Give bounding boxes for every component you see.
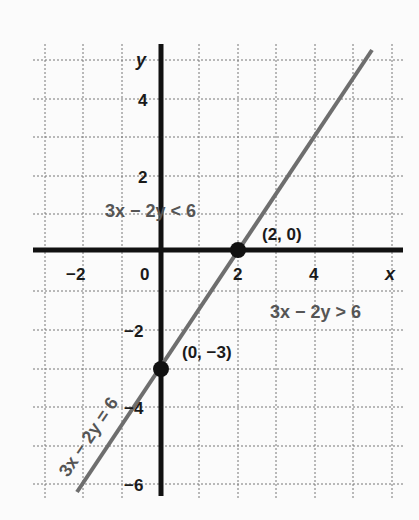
inequality-graph: y x −2 0 2 4 4 2 −2 −4 −6 (2, 0) (0, −3)… bbox=[0, 0, 419, 520]
region-label-greater: 3x − 2y > 6 bbox=[270, 302, 361, 322]
boundary-line bbox=[77, 50, 372, 492]
x-tick-4: 4 bbox=[309, 265, 319, 284]
y-tick-minus-2: −2 bbox=[124, 322, 143, 341]
y-tick-minus-4: −4 bbox=[124, 399, 144, 418]
y-tick-4: 4 bbox=[138, 91, 148, 110]
x-tick-minus-2: −2 bbox=[66, 265, 85, 284]
x-tick-2: 2 bbox=[233, 265, 242, 284]
region-label-less: 3x − 2y < 6 bbox=[105, 201, 196, 221]
y-axis-label: y bbox=[135, 50, 147, 70]
point-label-2-0: (2, 0) bbox=[262, 225, 302, 244]
x-axis-label: x bbox=[384, 264, 396, 284]
point-label-0-m3: (0, −3) bbox=[182, 343, 232, 362]
point-0-m3 bbox=[153, 361, 169, 377]
y-tick-2: 2 bbox=[138, 168, 147, 187]
y-tick-minus-6: −6 bbox=[124, 476, 143, 495]
x-tick-0: 0 bbox=[140, 265, 149, 284]
point-2-0 bbox=[230, 242, 246, 258]
